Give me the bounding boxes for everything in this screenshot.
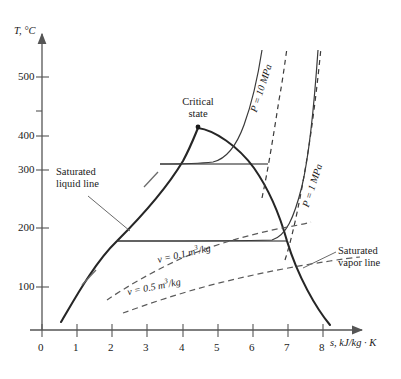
y-tick-400: 400 — [18, 129, 35, 142]
liquid-line-tick-lower — [82, 270, 96, 285]
x-tick-3: 3 — [143, 341, 149, 354]
isochore-0-1-suffix: /kg — [197, 242, 211, 255]
isochore-0-5-suffix: /kg — [167, 276, 181, 289]
y-tick-500: 500 — [18, 70, 35, 83]
y-tick-100: 100 — [18, 280, 35, 293]
x-tick-6: 6 — [249, 341, 255, 354]
y-tick-300: 300 — [18, 163, 35, 176]
x-axis-title: s, kJ/kg · K — [330, 337, 376, 349]
liquid-line-tick-upper — [144, 172, 158, 187]
critical-point-marker — [196, 125, 201, 130]
sat-liquid-leader — [88, 196, 130, 231]
saturated-vapor-label: Saturated vapor line — [338, 245, 400, 269]
x-tick-4: 4 — [179, 341, 185, 354]
x-axis — [30, 324, 362, 337]
y-axis — [36, 34, 49, 330]
saturated-vapor-line1: Saturated — [338, 245, 378, 256]
saturated-vapor-line2: vapor line — [338, 257, 380, 268]
x-tick-0: 0 — [38, 341, 44, 354]
saturated-vapor-line — [198, 128, 330, 325]
saturated-liquid-label: Saturated liquid line — [56, 166, 126, 190]
saturated-liquid-line2: liquid line — [56, 178, 99, 189]
y-axis-title: T, °C — [14, 25, 36, 37]
x-tick-7: 7 — [284, 341, 290, 354]
x-tick-5: 5 — [214, 341, 220, 354]
ts-diagram-figure: T, °C s, kJ/kg · K 500 400 300 200 100 0… — [0, 0, 401, 379]
critical-state-line1: Critical — [182, 96, 214, 107]
x-tick-8: 8 — [319, 341, 325, 354]
isobar-1mpa-curve — [117, 50, 318, 241]
sat-vapor-leader — [303, 252, 336, 268]
x-tick-2: 2 — [108, 341, 114, 354]
x-tick-1: 1 — [73, 341, 79, 354]
critical-state-line2: state — [188, 108, 207, 119]
y-tick-200: 200 — [18, 221, 35, 234]
critical-state-label: Critical state — [166, 96, 230, 120]
saturated-liquid-line1: Saturated — [56, 166, 96, 177]
